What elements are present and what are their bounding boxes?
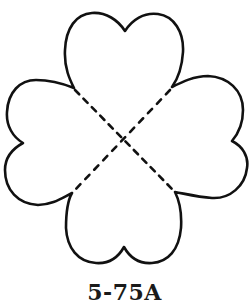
clover-outline-icon — [0, 0, 249, 270]
clover-outline — [5, 13, 247, 263]
fold-line-diagonal-up — [74, 90, 170, 191]
figure-caption: 5-75A — [0, 280, 249, 305]
clover-figure — [0, 0, 249, 270]
